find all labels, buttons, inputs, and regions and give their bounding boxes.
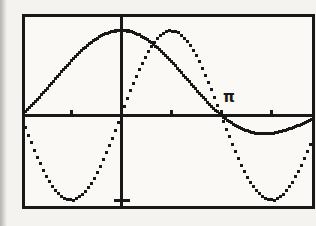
scanned-calculator-screenshot: π xyxy=(0,0,316,226)
scan-edge-shadow xyxy=(0,0,7,226)
graph-window-frame xyxy=(22,14,315,209)
pi-axis-label: π xyxy=(223,90,235,105)
